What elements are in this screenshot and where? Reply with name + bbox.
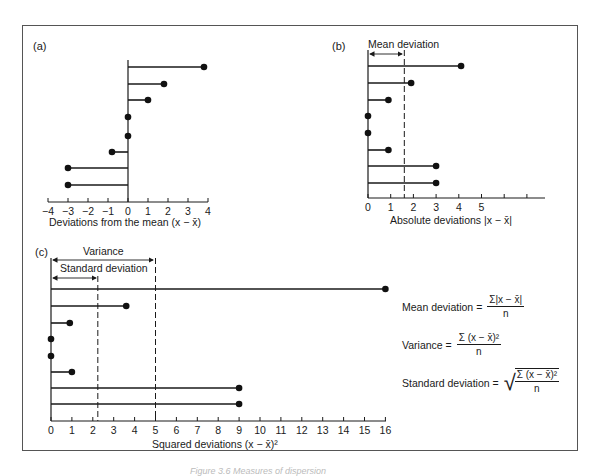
fraction: Σ|x − x̄| n [487,294,524,319]
panel-a-label: (a) [33,40,46,52]
tick-label: 3 [111,424,117,436]
tick-label: 9 [236,424,242,436]
lollipop [368,147,392,154]
denominator: n [534,382,540,394]
tick-label: 0 [365,201,371,213]
tick-label: 7 [194,424,200,436]
panel-b: (b) Mean deviation 012345 Absolute devia… [332,38,545,226]
panel-a-lollipops [65,64,208,189]
data-point [145,97,152,104]
tick-label: 15 [359,424,371,436]
tick-label: 6 [173,424,179,436]
lollipop [65,182,128,189]
lollipop [51,401,242,408]
formula-variance: Variance = Σ (x − x̄)² n [402,332,501,357]
data-point [385,147,392,154]
data-point [236,401,243,408]
panel-a-xlabel: Deviations from the mean (x − x̄) [49,216,201,228]
numerator: Σ (x − x̄)² [515,369,559,382]
tick-label: 4 [205,205,211,217]
tick-label: 1 [69,424,75,436]
tick-label: 5 [153,424,159,436]
data-point [125,114,132,121]
lollipop [51,303,130,310]
data-point [365,113,372,120]
denominator: n [476,345,482,357]
panel-c-label: (c) [35,246,48,258]
tick-label: 5 [479,201,485,213]
lollipop [128,64,207,71]
lollipop [365,130,372,137]
data-point [385,97,392,104]
data-point [67,320,74,327]
tick-label: 2 [410,201,416,213]
tick-label: 13 [317,424,329,436]
denominator: n [503,307,509,319]
tick-label: 4 [456,201,462,213]
panel-b-ticks: 012345 [365,194,527,213]
data-point [48,336,55,343]
fraction: Σ (x − x̄)² n [457,332,501,357]
data-point [65,182,72,189]
tick-label: 0 [48,424,54,436]
lollipop [125,133,132,140]
lollipop [125,114,132,121]
data-point [201,64,208,71]
tick-label: 12 [296,424,308,436]
mean-deviation-annotation: Mean deviation [368,38,439,50]
panel-c-ticks: 012345678910111213141516 [48,417,391,436]
panel-c: (c) Variance Standard deviation 01234567… [35,245,391,450]
tick-label: 3 [433,201,439,213]
formula-variance-lhs: Variance = [402,339,452,351]
lollipop [51,369,75,376]
lollipop [368,163,439,170]
data-point [365,130,372,137]
fraction: Σ (x − x̄)² n [515,368,559,398]
data-point [123,303,130,310]
lollipop [48,336,55,343]
data-point [161,81,168,88]
lollipop [65,165,128,172]
lollipop [368,63,464,70]
tick-label: 11 [275,424,286,436]
data-point [65,165,72,172]
numerator: Σ (x − x̄)² [457,332,501,345]
lollipop [368,97,392,104]
variance-annotation: Variance [83,245,124,257]
data-point [408,80,415,87]
data-point [236,385,243,392]
tick-label: 1 [388,201,394,213]
formula-standard-deviation: Standard deviation = √ Σ (x − x̄)² n [402,368,559,398]
panel-c-lollipops [48,286,389,408]
data-point [48,353,55,360]
panel-c-xlabel: Squared deviations (x − x̄)² [152,438,278,450]
lollipop [128,97,151,104]
lollipop [51,286,389,293]
data-point [109,149,116,156]
data-point [433,163,440,170]
figure-caption: Figure 3.6 Measures of dispersion [190,466,326,476]
tick-label: 16 [380,424,392,436]
tick-label: 4 [132,424,138,436]
panel-b-lollipops [365,63,465,187]
tick-label: 2 [90,424,96,436]
standard-deviation-annotation: Standard deviation [60,262,148,274]
lollipop [128,81,167,88]
tick-label: 8 [215,424,221,436]
lollipop [368,80,414,87]
panel-b-label: (b) [332,40,345,52]
lollipop [368,180,439,187]
data-point [433,180,440,187]
data-point [125,133,132,140]
panel-a: (a) −4−3−2−101234 Deviations from the me… [33,40,211,228]
tick-label: 14 [338,424,350,436]
data-point [382,286,389,293]
numerator: Σ|x − x̄| [487,294,524,307]
lollipop [365,113,372,120]
formula-mean-deviation: Mean deviation = Σ|x − x̄| n [402,294,524,319]
data-point [69,369,76,376]
panel-a-ticks: −4−3−2−101234 [42,198,211,217]
tick-label: 10 [254,424,266,436]
lollipop [109,149,128,156]
